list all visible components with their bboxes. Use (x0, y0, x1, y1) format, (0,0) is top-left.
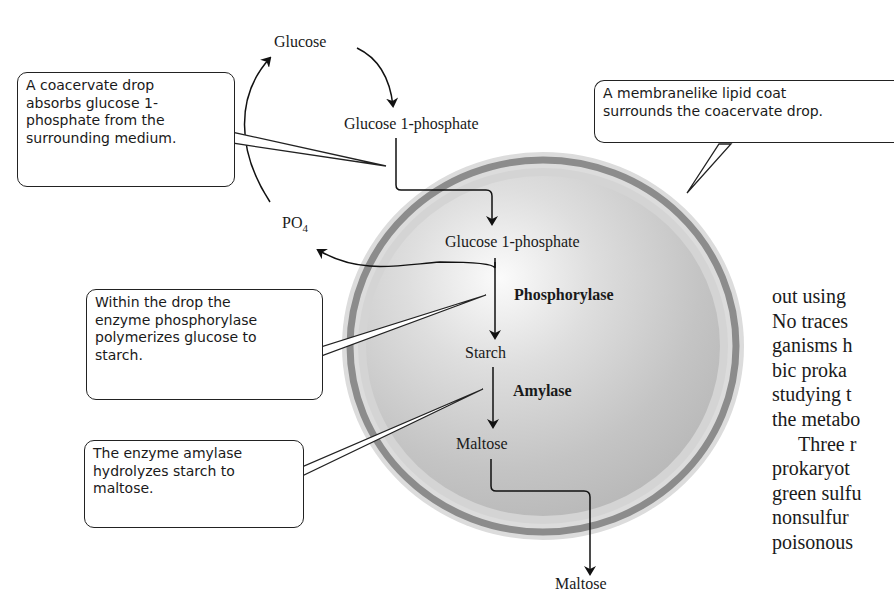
label-glucose-1-phosphate-outside: Glucose 1-phosphate (344, 116, 479, 132)
callout-phosphorylase-line: Within the drop the (95, 294, 314, 312)
body-text-column: out using No traces ganisms h bic proka … (772, 284, 861, 555)
glucose-to-g1p-arrow (357, 48, 393, 106)
body-text-line: studying t (772, 382, 861, 407)
body-text-line: the metabo (772, 407, 861, 432)
label-glucose: Glucose (274, 34, 326, 50)
body-text-line: Three r (772, 432, 861, 457)
label-maltose-outside: Maltose (555, 576, 607, 592)
absorb-callout-pointer (232, 132, 386, 166)
label-amylase: Amylase (513, 383, 572, 399)
callout-absorb-line: phosphate from the (26, 112, 226, 130)
callout-amylase: The enzyme amylase hydrolyzes starch to … (84, 440, 304, 528)
callout-amylase-line: hydrolyzes starch to (93, 463, 295, 481)
callout-membrane-line: A membranelike lipid coat (603, 85, 886, 103)
callout-membrane: A membranelike lipid coat surrounds the … (594, 80, 894, 143)
coacervate-drop (342, 152, 744, 540)
label-maltose-inside: Maltose (456, 436, 508, 452)
callout-phosphorylase-line: polymerizes glucose to (95, 329, 314, 347)
callout-absorb: A coacervate drop absorbs glucose 1- pho… (17, 72, 235, 187)
callout-amylase-line: maltose. (93, 480, 295, 498)
po4-subscript: 4 (302, 222, 308, 234)
body-text-line: ganisms h (772, 333, 861, 358)
body-text-line: green sulfu (772, 481, 861, 506)
label-glucose-1-phosphate-inside: Glucose 1-phosphate (445, 234, 580, 250)
callout-absorb-line: absorbs glucose 1- (26, 95, 226, 113)
body-text-line: out using (772, 284, 861, 309)
callout-phosphorylase-line: enzyme phosphorylase (95, 312, 314, 330)
callout-phosphorylase-line: starch. (95, 347, 314, 365)
body-text-line: No traces (772, 309, 861, 334)
label-starch: Starch (465, 345, 506, 361)
label-phosphorylase: Phosphorylase (514, 287, 614, 303)
drop-interior (366, 176, 720, 516)
po4-text: PO (282, 214, 302, 231)
body-text-line: nonsulfur (772, 505, 861, 530)
callout-phosphorylase: Within the drop the enzyme phosphorylase… (86, 289, 323, 400)
body-text-line: prokaryot (772, 456, 861, 481)
body-text-line: bic proka (772, 358, 861, 383)
membrane-callout-pointer (687, 144, 731, 193)
po4-to-glucose-arrow (245, 58, 271, 202)
callout-absorb-line: A coacervate drop (26, 77, 226, 95)
callout-membrane-line: surrounds the coacervate drop. (603, 103, 886, 121)
label-po4: PO4 (282, 215, 308, 234)
callout-amylase-line: The enzyme amylase (93, 445, 295, 463)
body-text-line: poisonous (772, 530, 861, 555)
callout-absorb-line: surrounding medium. (26, 130, 226, 148)
